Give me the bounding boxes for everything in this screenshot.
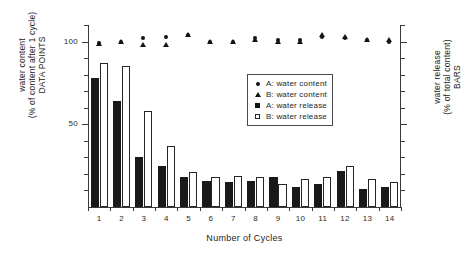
y-axis-left-title-line3: DATA POINTS — [37, 0, 47, 160]
x-axis-tick-label: 13 — [356, 214, 378, 223]
legend-key — [252, 103, 263, 108]
legend-marker-filled-circle-icon — [256, 82, 260, 86]
x-axis-tick-label: 6 — [200, 214, 222, 223]
bar-b-water-release — [234, 176, 242, 207]
x-axis-tick-label: 10 — [289, 214, 311, 223]
x-axis-tick-label: 1 — [88, 214, 110, 223]
y-axis-tick-label: 100 — [52, 37, 78, 46]
x-axis-tick-label: 5 — [178, 214, 200, 223]
x-axis-tick-label: 9 — [267, 214, 289, 223]
legend-item: B: water content — [252, 89, 327, 100]
legend-marker-filled-square-icon — [255, 103, 260, 108]
bar-a-water-release — [359, 189, 367, 207]
bar-b-water-release — [390, 182, 398, 207]
x-axis-tick-label: 8 — [245, 214, 267, 223]
legend-key — [252, 92, 263, 97]
bar-a-water-release — [91, 78, 99, 207]
legend-item-label: A: water content — [266, 79, 327, 88]
bar-b-water-release — [256, 177, 264, 207]
bar-a-water-release — [292, 187, 300, 207]
x-axis-tick-label: 14 — [379, 214, 401, 223]
legend-item-label: B: water content — [266, 90, 327, 99]
x-axis-tick — [177, 207, 178, 211]
legend-item-label: A: water release — [266, 101, 327, 110]
bar-b-water-release — [368, 179, 376, 207]
x-axis-tick — [312, 207, 313, 211]
y-axis-right-title-line2: (% of total content) — [442, 0, 452, 172]
chart-figure: 50100 1234567891011121314 water content … — [0, 0, 476, 260]
legend-marker-open-square-icon — [255, 114, 260, 119]
x-axis-tick — [334, 207, 335, 211]
bar-a-water-release — [269, 177, 277, 207]
legend-item-label: B: water release — [266, 112, 327, 121]
bar-b-water-release — [189, 172, 197, 207]
legend-item: B: water release — [252, 111, 327, 122]
y-axis-right-title-line1: water release — [432, 0, 442, 172]
x-axis-tick — [222, 207, 223, 211]
x-axis-title: Number of Cycles — [88, 233, 401, 243]
x-axis-tick-label: 2 — [111, 214, 133, 223]
legend-key — [252, 82, 263, 86]
y-axis-left-title-line1: water content — [17, 0, 27, 160]
legend-key — [252, 114, 263, 119]
x-axis-tick — [267, 207, 268, 211]
legend-item: A: water release — [252, 100, 327, 111]
bar-a-water-release — [381, 187, 389, 207]
y-axis-right-tick — [400, 42, 407, 43]
bar-b-water-release — [323, 177, 331, 207]
bar-b-water-release — [278, 184, 286, 207]
legend-marker-filled-triangle-icon — [255, 92, 261, 97]
bar-b-water-release — [301, 179, 309, 207]
y-axis-left-title-line2: (% of content after 1 cycle) — [27, 0, 37, 160]
bar-a-water-release — [158, 166, 166, 207]
bar-a-water-release — [314, 184, 322, 207]
bar-b-water-release — [211, 177, 219, 207]
bar-a-water-release — [247, 181, 255, 207]
bar-a-water-release — [135, 157, 143, 207]
bar-a-water-release — [225, 182, 233, 207]
legend-item: A: water content — [252, 78, 327, 89]
y-axis-left-title: water content (% of content after 1 cycl… — [17, 0, 47, 160]
x-axis-tick — [110, 207, 111, 211]
bar-b-water-release — [100, 63, 108, 207]
y-axis-tick-label: 50 — [52, 119, 78, 128]
bar-b-water-release — [122, 66, 130, 207]
bar-b-water-release — [346, 166, 354, 207]
x-axis-tick — [289, 207, 290, 211]
x-axis-tick — [379, 207, 380, 211]
bar-a-water-release — [202, 181, 210, 207]
x-axis-tick — [356, 207, 357, 211]
bar-b-water-release — [144, 111, 152, 207]
bar-b-water-release — [167, 146, 175, 207]
bars-layer — [88, 25, 401, 207]
bar-a-water-release — [113, 101, 121, 207]
y-axis-right-title-line3: BARS — [452, 0, 462, 172]
x-axis-tick — [88, 207, 89, 211]
y-axis-right-tick — [400, 124, 407, 125]
x-axis-tick-label: 12 — [334, 214, 356, 223]
y-axis-right-title: water release (% of total content) BARS — [432, 0, 462, 172]
bar-a-water-release — [180, 177, 188, 207]
x-axis-tick-label: 11 — [312, 214, 334, 223]
x-axis-tick-label: 7 — [222, 214, 244, 223]
x-axis-tick — [200, 207, 201, 211]
bar-a-water-release — [337, 171, 345, 207]
x-axis-tick — [401, 207, 402, 211]
x-axis-tick — [245, 207, 246, 211]
x-axis-tick — [155, 207, 156, 211]
x-axis-tick-label: 4 — [155, 214, 177, 223]
chart-legend: A: water contentB: water contentA: water… — [247, 74, 333, 126]
x-axis-tick-label: 3 — [133, 214, 155, 223]
x-axis-tick — [133, 207, 134, 211]
